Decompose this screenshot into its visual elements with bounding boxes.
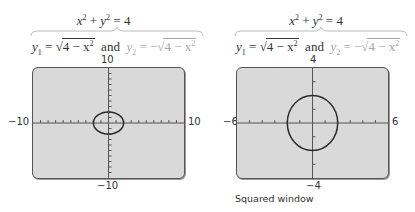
ymin-label: −4 xyxy=(306,180,321,191)
squared-window-panel: x2 + y2 = 4 y1 = √4 − x2 and y2 = −√4 − … xyxy=(207,0,415,212)
ymin-label: −10 xyxy=(97,180,118,191)
ymax-label: 10 xyxy=(101,54,114,65)
ymax-label: 4 xyxy=(310,54,316,65)
graph-screen xyxy=(32,67,185,179)
graph-screen xyxy=(236,67,389,179)
brace-icon xyxy=(30,27,204,37)
xmin-label: −10 xyxy=(8,116,29,127)
xmax-label: 6 xyxy=(392,116,398,127)
squared-window-caption: Squared window xyxy=(235,193,314,204)
standard-window-panel: x2 + y2 = 4 y1 = √4 − x2 and y2 = −√4 − … xyxy=(0,0,207,212)
graph-plot xyxy=(237,68,388,178)
graph-plot xyxy=(33,68,184,178)
brace-icon xyxy=(234,27,408,37)
xmax-label: 10 xyxy=(188,116,201,127)
split-equations: y1 = √4 − x2 and y2 = −√4 − x2 xyxy=(236,38,400,57)
split-equations: y1 = √4 − x2 and y2 = −√4 − x2 xyxy=(32,38,196,57)
